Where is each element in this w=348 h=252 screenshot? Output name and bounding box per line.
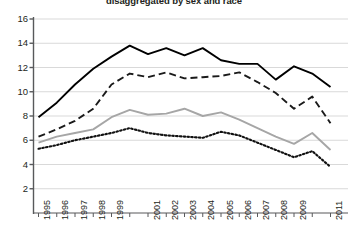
y-axis-tick-label: 4 — [2, 160, 28, 170]
x-axis-tick-label: 2004 — [207, 200, 216, 220]
x-axis-tick-label: 1997 — [80, 200, 89, 220]
x-axis-tick-label: 1999 — [116, 200, 125, 220]
chart-container: disaggregated by sex and race 1614121086… — [0, 0, 348, 252]
y-axis-tick-label: 2 — [2, 184, 28, 194]
x-axis-tick-label: 1995 — [43, 200, 52, 220]
series-dotted-black — [39, 128, 331, 167]
x-axis-tick-label: 2001 — [153, 200, 162, 220]
y-axis-tick-label: 16 — [2, 14, 28, 24]
series-dashed-black — [39, 72, 331, 136]
x-axis-tick-label: 1996 — [61, 200, 70, 220]
x-axis-tick-label: 2003 — [189, 200, 198, 220]
x-axis-tick-label: 2005 — [226, 200, 235, 220]
y-axis-tick-label: 10 — [2, 87, 28, 97]
y-axis-tick-label: 14 — [2, 38, 28, 48]
x-axis-tick-label: 2007 — [262, 200, 271, 220]
x-axis-tick-label: 2011 — [335, 201, 344, 220]
x-axis-tick-label: 1998 — [98, 200, 107, 220]
x-axis-tick-label: 2002 — [171, 200, 180, 220]
x-axis-tick-label: 2009 — [299, 200, 308, 220]
x-axis-tick-label: 2008 — [280, 200, 289, 220]
y-axis-tick-label: 6 — [2, 135, 28, 145]
series-solid-black — [39, 46, 331, 118]
y-axis-tick-label: 8 — [2, 111, 28, 121]
y-axis-tick-label: 12 — [2, 63, 28, 73]
x-axis-tick-label: 2006 — [244, 200, 253, 220]
data-series-group — [39, 46, 331, 167]
